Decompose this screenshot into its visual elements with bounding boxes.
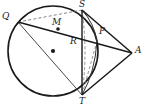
circle-center-dot — [51, 49, 55, 53]
point-label-a: A — [135, 46, 142, 55]
segment-qs-dashed — [18, 10, 82, 22]
point-dot-m — [56, 27, 60, 31]
geometry-diagram-canvas — [0, 0, 146, 112]
segment-qt — [18, 22, 82, 95]
point-label-t: T — [79, 97, 85, 106]
point-label-p: P — [99, 27, 105, 36]
point-label-q: Q — [2, 12, 9, 21]
point-label-m: M — [52, 18, 61, 27]
point-label-r: R — [70, 37, 77, 46]
geometry-figure: Q S M R P A T — [0, 0, 146, 112]
point-label-s: S — [79, 0, 85, 9]
segment-ta — [82, 53, 132, 95]
